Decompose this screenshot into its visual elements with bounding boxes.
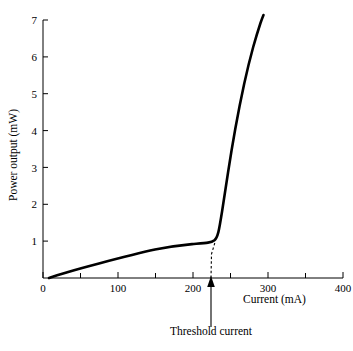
x-axis-major-ticks <box>43 272 343 278</box>
x-tick-label-200: 200 <box>185 282 202 294</box>
y-axis-title: Power output (mW) <box>7 109 20 201</box>
x-tick-label-100: 100 <box>110 282 127 294</box>
threshold-extrapolation-dashed-line <box>211 243 215 278</box>
y-tick-label-3: 3 <box>32 162 38 174</box>
li-curve-line <box>49 15 264 278</box>
y-tick-label-2: 2 <box>32 198 38 210</box>
y-tick-label-5: 5 <box>32 88 38 100</box>
y-axis-ticks <box>43 20 48 241</box>
threshold-arrow <box>207 276 215 327</box>
y-tick-label-1: 1 <box>32 235 38 247</box>
threshold-current-label: Threshold current <box>170 325 253 337</box>
figure-container: 1 2 3 4 5 6 7 0 100 200 300 400 Current … <box>0 0 353 351</box>
y-tick-label-6: 6 <box>32 51 38 63</box>
x-tick-label-400: 400 <box>335 282 352 294</box>
x-tick-label-0: 0 <box>40 282 46 294</box>
laser-li-curve-chart: 1 2 3 4 5 6 7 0 100 200 300 400 Current … <box>0 0 353 351</box>
x-axis-title: Current (mA) <box>243 293 306 306</box>
y-tick-label-7: 7 <box>32 14 38 26</box>
y-tick-label-4: 4 <box>32 125 38 137</box>
